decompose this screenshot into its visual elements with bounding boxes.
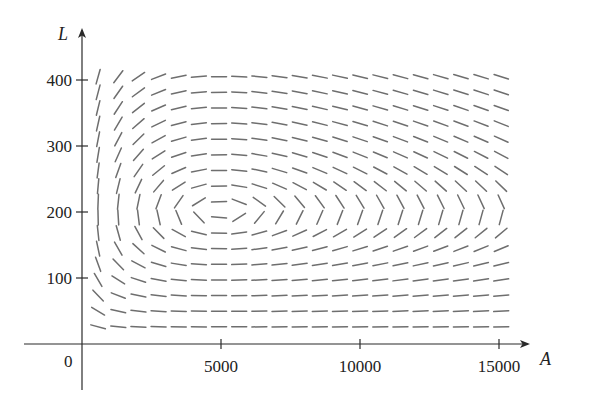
slope-segment (272, 230, 286, 235)
slope-segment (193, 198, 206, 206)
slope-segment (433, 295, 448, 296)
slope-segment (152, 245, 165, 252)
slope-segment (252, 92, 267, 94)
slope-segment (336, 196, 344, 209)
slope-field-segments (91, 69, 509, 328)
slope-segment (172, 137, 186, 141)
slope-segment (476, 181, 487, 191)
slope-segment (474, 136, 488, 142)
slope-segment (232, 92, 247, 93)
slope-segment (292, 153, 306, 157)
slope-segment (333, 75, 348, 78)
slope-segment (232, 139, 247, 140)
slope-segment (114, 117, 122, 130)
slope-segment (373, 137, 387, 142)
slope-segment (292, 263, 307, 265)
slope-segment (455, 181, 466, 191)
slope-segment (171, 106, 186, 109)
slope-segment (93, 290, 103, 301)
slope-segment (494, 263, 509, 267)
slope-segment (172, 182, 185, 190)
slope-segment (151, 262, 165, 266)
slope-segment (272, 168, 286, 172)
slope-segment (252, 154, 267, 157)
slope-segment (333, 91, 348, 94)
slope-segment (255, 212, 265, 224)
slope-segment (252, 107, 267, 109)
x-tick-label: 15000 (478, 357, 521, 376)
slope-segment (413, 90, 427, 94)
slope-segment (353, 246, 367, 250)
slope-segment (374, 182, 386, 191)
slope-segment (413, 75, 427, 79)
slope-segment (434, 152, 448, 159)
slope-segment (97, 132, 100, 147)
slope-segment (292, 75, 307, 78)
slope-segment (115, 148, 121, 162)
slope-segment (272, 247, 287, 250)
slope-segment (499, 210, 503, 224)
slope-segment (353, 167, 366, 174)
slope-segment (273, 183, 287, 189)
slope-segment (494, 136, 508, 142)
slope-segment (116, 163, 121, 177)
slope-segment (418, 210, 422, 224)
slope-segment (494, 279, 509, 281)
slope-segment (373, 152, 387, 158)
slope-segment (312, 279, 327, 280)
slope-segment (414, 167, 427, 175)
slope-segment (137, 194, 140, 209)
slope-segment (414, 121, 428, 126)
slope-segment (313, 168, 327, 174)
slope-segment (152, 74, 166, 79)
slope-segment (373, 295, 388, 296)
slope-segment (252, 264, 267, 265)
y-tick-label: 200 (47, 203, 73, 222)
slope-segment (292, 295, 307, 296)
y-tick-label: 300 (47, 137, 73, 156)
slope-segment (115, 133, 122, 146)
slope-segment (232, 154, 247, 155)
slope-segment (333, 167, 347, 173)
slope-segment (353, 137, 367, 142)
slope-segment (176, 210, 182, 224)
slope-segment (373, 263, 388, 266)
slope-segment (437, 195, 444, 208)
slope-segment (454, 263, 469, 266)
slope-segment (354, 182, 366, 191)
slope-segment (111, 293, 125, 298)
slope-segment (192, 169, 207, 172)
slope-segment (358, 210, 363, 224)
slope-segment (353, 295, 368, 296)
slope-segment (114, 71, 123, 83)
slope-segment (434, 90, 448, 94)
slope-segment (413, 106, 427, 111)
slope-segment (111, 326, 126, 328)
slope-segment (232, 76, 247, 77)
slope-segment (435, 228, 447, 237)
slope-segment (153, 166, 165, 175)
slope-segment (353, 152, 367, 157)
slope-segment (118, 210, 119, 225)
slope-segment (232, 108, 247, 109)
slope-segment (134, 149, 144, 160)
slope-segment (434, 121, 448, 126)
slope-segment (378, 210, 383, 224)
slope-segment (393, 279, 408, 281)
slope-segment (132, 261, 145, 268)
y-tick-label: 100 (47, 269, 73, 288)
slope-segment (194, 212, 204, 223)
slope-segment (152, 90, 166, 96)
slope-segment (252, 184, 266, 188)
slope-segment (353, 263, 368, 266)
slope-segment (373, 106, 387, 110)
slope-segment (292, 247, 307, 250)
slope-segment (313, 137, 327, 141)
slope-segment (171, 311, 186, 312)
slope-segment (191, 264, 206, 265)
slope-segment (453, 311, 468, 312)
slope-segment (272, 138, 287, 141)
slope-segment (333, 295, 348, 296)
slope-segment (192, 184, 206, 188)
slope-segment (495, 228, 507, 238)
